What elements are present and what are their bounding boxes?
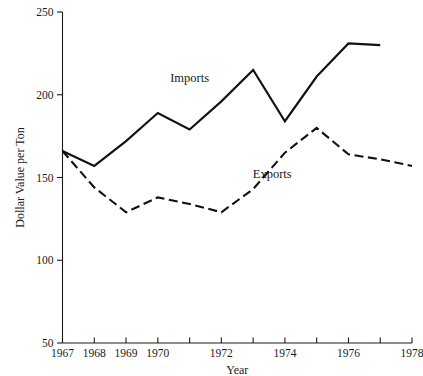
y-axis-ticks xyxy=(57,12,63,343)
y-tick-label: 250 xyxy=(36,6,54,18)
x-tick-label: 1967 xyxy=(51,347,74,359)
series-line-imports xyxy=(63,43,381,165)
y-tick-label: 200 xyxy=(36,89,54,101)
x-axis-title: Year xyxy=(226,363,248,376)
x-axis-ticks xyxy=(63,338,413,344)
x-axis-tick-labels: 19671968196919701972197419761978 xyxy=(51,347,423,359)
y-axis-tick-labels: 50100150200250 xyxy=(36,6,54,349)
x-tick-label: 1978 xyxy=(401,347,423,359)
y-axis-title: Dollar Value per Ton xyxy=(13,127,27,227)
x-tick-label: 1974 xyxy=(273,347,296,359)
series-annotation-exports: Exports xyxy=(253,167,292,181)
series-annotation-imports: Imports xyxy=(170,71,209,85)
line-chart: 50100150200250 Dollar Value per Ton 1967… xyxy=(0,0,423,376)
x-tick-label: 1970 xyxy=(146,347,169,359)
x-tick-label: 1969 xyxy=(115,347,138,359)
chart-canvas: 50100150200250 Dollar Value per Ton 1967… xyxy=(0,0,423,376)
data-series-group xyxy=(63,43,413,212)
x-tick-label: 1972 xyxy=(210,347,233,359)
y-tick-label: 100 xyxy=(36,254,54,266)
x-tick-label: 1968 xyxy=(83,347,106,359)
series-annotations: ImportsExports xyxy=(170,71,292,181)
x-axis: 19671968196919701972197419761978 Year xyxy=(51,338,423,376)
series-line-exports xyxy=(63,128,413,212)
y-tick-label: 150 xyxy=(36,172,54,184)
y-axis: 50100150200250 Dollar Value per Ton xyxy=(13,6,63,349)
x-tick-label: 1976 xyxy=(337,347,360,359)
